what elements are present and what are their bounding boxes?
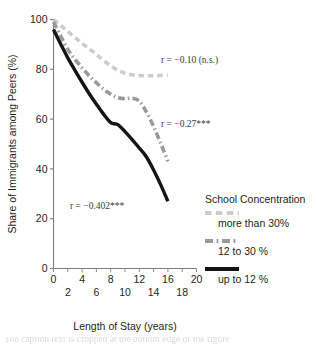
x-tick-label-upper: 8 — [108, 273, 114, 285]
y-tick-label: 60 — [36, 113, 48, 125]
cropped-caption-strip: The caption text is cropped at the botto… — [0, 337, 316, 348]
x-tick-label-upper: 12 — [133, 273, 145, 285]
x-tick-label-lower: 18 — [176, 286, 188, 298]
y-tick-label: 100 — [30, 13, 48, 25]
y-tick-label: 80 — [36, 63, 48, 75]
annotation-0: r = −0.10 (n.s.) — [161, 55, 218, 66]
data-series-group — [54, 20, 168, 202]
series-line-0 — [54, 20, 168, 76]
annotation-2: r = −0.402*** — [70, 201, 125, 211]
series-line-2 — [54, 29, 168, 201]
x-tick-label-upper: 0 — [51, 273, 57, 285]
x-axis-title: Length of Stay (years) — [73, 320, 176, 332]
y-tick-label: 40 — [36, 163, 48, 175]
y-tick-label: 0 — [42, 262, 48, 274]
figure-container: 020406080100 04812162026101418 Length of… — [0, 0, 316, 348]
annotation-1: r = −0.27*** — [161, 119, 211, 129]
x-tick-label-lower: 2 — [65, 286, 71, 298]
x-tick-label-upper: 20 — [191, 273, 203, 285]
cropped-caption-text: The caption text is cropped at the botto… — [4, 337, 230, 344]
x-tick-label-upper: 4 — [79, 273, 85, 285]
x-tick-label-upper: 16 — [162, 273, 174, 285]
x-tick-label-lower: 10 — [119, 286, 131, 298]
y-axis-title: Share of Immigrants among Peers (%) — [6, 54, 18, 233]
series-line-1 — [54, 22, 168, 161]
chart-canvas: 020406080100 04812162026101418 Length of… — [0, 0, 316, 348]
x-axis-tick-labels: 04812162026101418 — [51, 273, 203, 298]
legend: more than 30%12 to 30 %up to 12 % — [205, 213, 289, 285]
x-tick-label-lower: 14 — [148, 286, 160, 298]
y-tick-label: 20 — [36, 212, 48, 224]
y-axis-tick-labels: 020406080100 — [30, 13, 48, 274]
legend-label-0: more than 30% — [218, 217, 289, 229]
legend-label-1: 12 to 30 % — [218, 245, 268, 257]
legend-title: School Concentration — [205, 193, 306, 205]
legend-label-2: up to 12 % — [218, 273, 268, 285]
x-tick-label-lower: 6 — [93, 286, 99, 298]
